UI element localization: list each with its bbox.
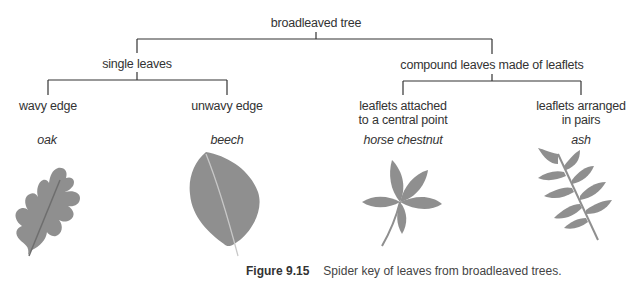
central-point-line2: to a central point: [359, 113, 448, 127]
unwavy-edge-node: unwavy edge: [191, 99, 262, 113]
figure-number: Figure 9.15: [246, 264, 309, 278]
single-leaves-node: single leaves: [102, 57, 172, 71]
compound-leaves-node: compound leaves made of leaflets: [400, 58, 583, 72]
central-point-node: leaflets attached to a central point: [359, 99, 448, 127]
caption-text: Spider key of leaves from broadleaved tr…: [323, 264, 561, 278]
oak-leaf-icon: [10, 150, 85, 260]
pairs-line2: in pairs: [536, 113, 626, 127]
ash-leaf-icon: [536, 148, 626, 258]
pairs-line1: leaflets arranged: [536, 99, 626, 113]
species-ash: ash: [571, 133, 591, 147]
horse-chestnut-leaf-icon: [350, 158, 460, 258]
central-point-line1: leaflets attached: [359, 99, 448, 113]
wavy-edge-node: wavy edge: [19, 99, 77, 113]
figure-caption: Figure 9.15Spider key of leaves from bro…: [246, 264, 561, 278]
species-oak: oak: [37, 133, 57, 147]
species-beech: beech: [210, 133, 243, 147]
pairs-node: leaflets arranged in pairs: [536, 99, 626, 127]
root-node: broadleaved tree: [271, 16, 362, 30]
beech-leaf-icon: [188, 148, 268, 260]
species-horse-chestnut: horse chestnut: [363, 133, 442, 147]
